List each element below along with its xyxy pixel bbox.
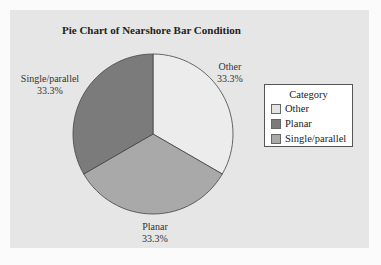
slice-label-other: Other 33.3%	[200, 61, 260, 85]
legend-swatch	[271, 119, 281, 129]
label-pct: 33.3%	[200, 73, 260, 85]
legend-swatch	[271, 134, 281, 144]
label-pct: 33.3%	[130, 233, 180, 245]
legend-title: Category	[265, 88, 352, 101]
label-pct: 33.3%	[14, 85, 86, 97]
label-name: Other	[200, 61, 260, 73]
label-name: Single/parallel	[14, 73, 86, 85]
slice-label-single-parallel: Single/parallel 33.3%	[14, 73, 86, 97]
legend-label: Single/parallel	[285, 133, 346, 144]
label-name: Planar	[130, 221, 180, 233]
legend-item-single-parallel: Single/parallel	[265, 131, 352, 146]
legend-swatch	[271, 104, 281, 114]
slice-label-planar: Planar 33.3%	[130, 221, 180, 245]
legend-label: Planar	[285, 118, 312, 129]
legend-item-other: Other	[265, 101, 352, 116]
legend-item-planar: Planar	[265, 116, 352, 131]
legend: Category Other Planar Single/parallel	[264, 84, 353, 147]
legend-label: Other	[285, 103, 309, 114]
